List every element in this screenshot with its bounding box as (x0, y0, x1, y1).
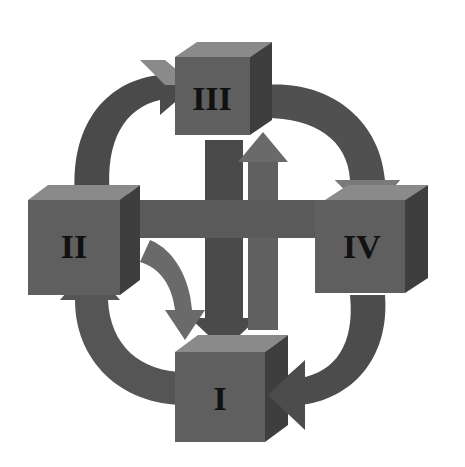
arrow-II-to-I-inner (140, 240, 205, 340)
cube-IV: IV (315, 185, 428, 293)
cube-I: I (175, 335, 288, 442)
node-label-III: III (192, 80, 232, 117)
cycle-diagram: III II IV I (0, 0, 465, 467)
cube-II: II (28, 185, 140, 295)
node-label-IV: IV (343, 228, 381, 265)
node-label-II: II (61, 228, 87, 265)
node-label-I: I (213, 380, 226, 417)
arrow-III-to-I (190, 140, 258, 350)
cube-III: III (175, 42, 272, 135)
